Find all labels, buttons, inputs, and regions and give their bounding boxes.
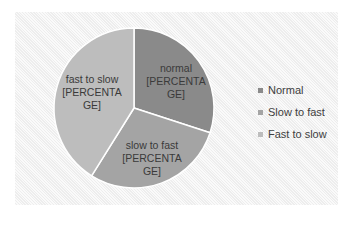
legend-label: Slow to fast	[268, 106, 325, 118]
legend: Normal Slow to fast Fast to slow	[258, 79, 327, 145]
label-value: [PERCENTA	[57, 86, 127, 99]
label-value: [PERCENTA	[141, 75, 211, 88]
label-value: [PERCENTA	[117, 152, 187, 165]
legend-label: Normal	[268, 84, 303, 96]
label-category: normal	[141, 62, 211, 75]
legend-item-slow-to-fast[interactable]: Slow to fast	[258, 101, 327, 123]
data-label-normal: normal [PERCENTA GE]	[141, 62, 211, 101]
legend-swatch-icon	[258, 132, 263, 137]
data-label-fast-to-slow: fast to slow [PERCENTA GE]	[57, 73, 127, 112]
legend-swatch-icon	[258, 88, 263, 93]
data-label-slow-to-fast: slow to fast [PERCENTA GE]	[117, 139, 187, 178]
label-category: fast to slow	[57, 73, 127, 86]
legend-item-fast-to-slow[interactable]: Fast to slow	[258, 123, 327, 145]
legend-swatch-icon	[258, 110, 263, 115]
legend-item-normal[interactable]: Normal	[258, 79, 327, 101]
label-category: slow to fast	[117, 139, 187, 152]
label-value-cont: GE]	[57, 99, 127, 112]
label-value-cont: GE]	[141, 88, 211, 101]
legend-label: Fast to slow	[268, 128, 327, 140]
label-value-cont: GE]	[117, 165, 187, 178]
